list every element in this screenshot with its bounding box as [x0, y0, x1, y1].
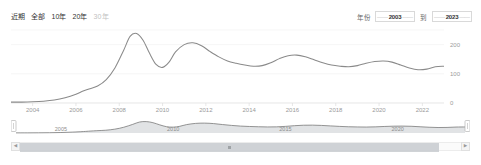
svg-text:2016: 2016 [286, 107, 300, 112]
year-to-value: 2023 [445, 14, 460, 20]
range-tab-30y[interactable]: 30年 [94, 12, 109, 21]
chart-series-line [11, 33, 444, 102]
main-chart-area[interactable]: 0100200 20042006200820102012201420162018… [0, 28, 481, 112]
svg-text:200: 200 [450, 42, 461, 48]
scroll-right-glyph: ▶ [464, 144, 467, 149]
horizontal-scrollbar[interactable]: ◀ ▶ [11, 142, 470, 151]
svg-text:2005: 2005 [55, 126, 67, 132]
scroll-right-arrow-icon[interactable]: ▶ [461, 142, 470, 151]
svg-text:0: 0 [450, 100, 454, 106]
svg-text:2006: 2006 [69, 107, 83, 112]
scroll-left-glyph: ◀ [14, 144, 17, 149]
range-tab-20y[interactable]: 20年 [73, 12, 88, 21]
year-to-input[interactable]: —— 2023 —— [432, 11, 472, 22]
range-tab-10y[interactable]: 10年 [51, 12, 66, 21]
scrollbar-track[interactable] [20, 142, 461, 151]
year-range-separator: 到 [419, 12, 428, 22]
svg-text:2004: 2004 [26, 107, 40, 112]
year-filter-label: 年份 [357, 12, 371, 22]
y-axis-labels: 0100200 [450, 42, 461, 106]
timeseries-chart-widget: 近期 全部 10年 20年 30年 年份 —— 2003 —— 到 —— 202… [0, 0, 481, 165]
range-tab-all[interactable]: 全部 [31, 12, 45, 21]
year-to-dash-right: —— [459, 14, 470, 20]
chart-toolbar: 近期 全部 10年 20年 30年 年份 —— 2003 —— 到 —— 202… [0, 0, 481, 30]
chart-gridlines [11, 30, 444, 103]
range-tab-group: 近期 全部 10年 20年 30年 [11, 12, 109, 21]
svg-text:2010: 2010 [167, 126, 179, 132]
svg-text:2010: 2010 [156, 107, 170, 112]
year-from-dash-left: —— [377, 14, 388, 20]
svg-text:2008: 2008 [113, 107, 127, 112]
year-range-filter: 年份 —— 2003 —— 到 —— 2023 —— [357, 11, 472, 22]
svg-text:100: 100 [450, 71, 461, 77]
year-from-dash-right: —— [402, 14, 413, 20]
main-chart-svg: 0100200 20042006200820102012201420162018… [0, 28, 481, 112]
brush-right-handle[interactable] [465, 121, 470, 132]
scroll-left-arrow-icon[interactable]: ◀ [11, 142, 20, 151]
svg-text:2020: 2020 [372, 107, 386, 112]
x-axis-labels: 2004200620082010201220142016201820202022 [26, 107, 430, 112]
svg-text:2020: 2020 [392, 126, 404, 132]
year-from-input[interactable]: —— 2003 —— [375, 11, 415, 22]
scrollbar-thumb[interactable] [20, 143, 439, 152]
brush-left-handle[interactable] [11, 121, 16, 132]
year-from-value: 2003 [388, 14, 403, 20]
range-tab-recent[interactable]: 近期 [11, 12, 25, 21]
year-to-dash-left: —— [434, 14, 445, 20]
svg-text:2022: 2022 [416, 107, 430, 112]
svg-text:2014: 2014 [242, 107, 256, 112]
svg-text:2012: 2012 [199, 107, 213, 112]
svg-text:2015: 2015 [279, 126, 291, 132]
chart-axis [11, 103, 444, 106]
svg-text:2018: 2018 [329, 107, 343, 112]
